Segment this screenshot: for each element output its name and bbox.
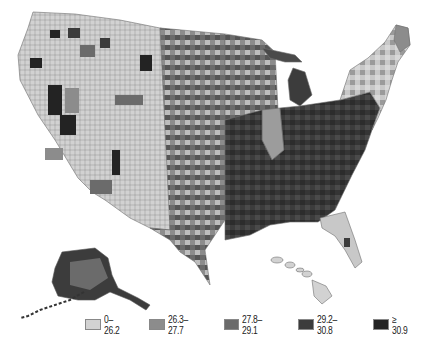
legend-swatch bbox=[224, 319, 240, 330]
legend-label: 26.3–27.7 bbox=[168, 314, 197, 336]
upper-midwest bbox=[225, 34, 278, 120]
legend-label: 27.8–29.1 bbox=[242, 314, 271, 336]
legend-swatch bbox=[85, 319, 101, 330]
legend-swatch bbox=[298, 319, 314, 330]
legend-item-0: 0–26.2 bbox=[85, 314, 127, 336]
florida bbox=[320, 212, 362, 268]
legend-swatch bbox=[373, 319, 389, 330]
legend-label: 29.2–30.8 bbox=[317, 314, 346, 336]
legend-item-4: ≥ 30.9 bbox=[373, 314, 413, 336]
legend-label: 0–26.2 bbox=[104, 314, 124, 336]
us-county-choropleth-map bbox=[0, 0, 435, 343]
legend: 0–26.2 26.3–27.7 27.8–29.1 29.2–30.8 ≥ 3… bbox=[85, 318, 435, 331]
legend-item-3: 29.2–30.8 bbox=[298, 314, 351, 336]
legend-item-1: 26.3–27.7 bbox=[149, 314, 202, 336]
legend-swatch bbox=[149, 319, 165, 330]
hawaii bbox=[271, 257, 332, 304]
legend-label: ≥ 30.9 bbox=[392, 314, 410, 336]
legend-item-2: 27.8–29.1 bbox=[224, 314, 277, 336]
southeast-region bbox=[225, 92, 380, 240]
